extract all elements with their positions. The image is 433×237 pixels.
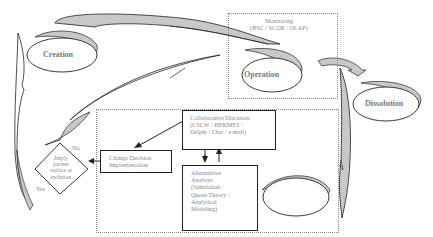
collaborative-line1: Collaborative Discution [190, 114, 275, 121]
change-decision-box: Change Decision Implementation [100, 150, 172, 173]
creation-label: Creation [43, 51, 73, 58]
alternatives-box: Alternatives Analisys (Simulation / Queu… [182, 165, 258, 231]
alternatives-line6: Modeling) [191, 205, 257, 212]
alternatives-line1: Alternatives [191, 169, 257, 176]
diamond-no-label: No [72, 144, 80, 151]
collaborative-line3: Delphi / Chat / e-mail) [190, 128, 275, 135]
collaborative-box: Collaborative Discution (CSCW / HERMES /… [182, 110, 276, 150]
diamond-yes-label: Yes [36, 185, 45, 192]
alternatives-line3: (Simulation / [191, 183, 257, 190]
diamond-line4: inclusion [40, 174, 82, 180]
arrow-right-down [339, 68, 350, 218]
diamond-text: Imply partner replace or inclusion [40, 155, 82, 180]
change-decision-line1: Change Decision [109, 154, 171, 161]
alternatives-line5: Analytical [191, 198, 257, 205]
collaborative-line2: (CSCW / HERMES / [190, 121, 275, 128]
alternatives-line2: Analisys [191, 176, 257, 183]
alternatives-line4: Queue Theory / [191, 191, 257, 198]
monitoring-tools: (BSC / SCOR / OLAP) [250, 24, 308, 31]
dissolution-label: Dissolution [365, 100, 403, 107]
change-decision-line2: Implementation [109, 161, 171, 168]
operation-label: Operation [244, 71, 279, 78]
